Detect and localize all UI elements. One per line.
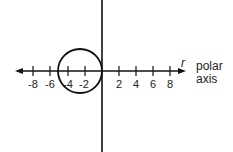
tick-label: 6 xyxy=(150,78,156,90)
polar-axis-label-line1: polar xyxy=(196,59,223,73)
tick-label: 2 xyxy=(116,78,122,90)
polar-graph: -8 -6 -4 -2 2 4 6 8 r polar axis xyxy=(0,0,233,152)
tick-label: -2 xyxy=(79,78,89,90)
polar-axis-label-line2: axis xyxy=(196,72,217,86)
tick-label: 8 xyxy=(167,78,173,90)
tick-label: -6 xyxy=(45,78,55,90)
left-arrowhead-icon xyxy=(15,68,23,74)
r-axis-label: r xyxy=(181,56,186,70)
tick-label: -8 xyxy=(28,78,38,90)
tick-label: -4 xyxy=(63,78,73,90)
tick-label: 4 xyxy=(133,78,139,90)
